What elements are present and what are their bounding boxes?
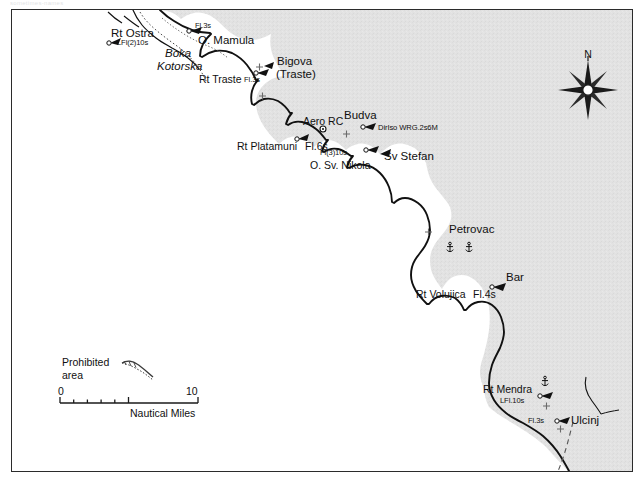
label-rt-platamuni: Rt Platamuni — [237, 141, 297, 152]
label-boka-kotorska-line1: Boka — [165, 47, 191, 59]
map-page: sometimes-names — [0, 0, 642, 481]
label-ulcinj-light: Fl.3s — [528, 417, 544, 425]
label-o-mamula-light: Fl.3s — [195, 22, 211, 30]
label-bigova-line1: Bigova — [277, 55, 312, 67]
label-ulcinj: Ulcinj — [571, 414, 599, 426]
scale-bar-graphic — [50, 351, 260, 421]
label-rt-traste-light: Fl.3s — [244, 76, 260, 84]
label-budva: Budva — [344, 109, 377, 121]
label-rt-ostra-light: LFl(2)10s — [117, 39, 148, 47]
map-frame: Rt Ostra LFl(2)10s Fl.3s O. Mamula Boka … — [11, 9, 633, 472]
label-bigova-line2: (Traste) — [276, 68, 316, 80]
label-o-sv-nikola-light: Fl(3)10s — [320, 149, 347, 157]
label-rt-mendra: Rt Mendra — [483, 384, 532, 395]
prohibited-area-symbol — [122, 361, 153, 380]
label-aero-rc: Aero RC — [303, 116, 343, 127]
page-caption-faint: sometimes-names — [10, 0, 106, 7]
label-boka-kotorska-line2: Kotorska — [157, 60, 202, 72]
scale-legend: Prohibited area 0 10 Nautical Miles — [50, 351, 260, 421]
label-o-sv-nikola: O. Sv. Nikola — [310, 160, 371, 171]
compass-north-label: N — [556, 48, 620, 60]
label-rt-volujica: Rt Volujica — [416, 289, 466, 300]
label-petrovac: Petrovac — [449, 223, 494, 235]
label-diriso: DirIso WRG.2s6M — [378, 124, 438, 132]
label-sv-stefan: Sv Stefan — [384, 150, 434, 162]
label-rt-mendra-light: LFl.10s — [500, 397, 524, 405]
label-rt-traste: Rt Traste — [199, 74, 242, 85]
label-o-mamula: O. Mamula — [198, 34, 254, 46]
scale-bar-ticks — [60, 397, 198, 403]
label-rt-volujica-light: Fl.4s — [473, 289, 496, 300]
label-bar: Bar — [506, 271, 524, 283]
compass-rose: N — [556, 48, 620, 120]
